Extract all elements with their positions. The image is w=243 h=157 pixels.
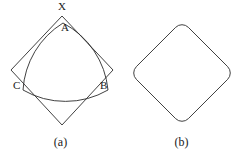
vertex-label-b: B <box>100 80 107 91</box>
figure-panel-a: X A B C (a) <box>0 0 121 157</box>
vertex-label-x: X <box>58 1 66 12</box>
figure-caption-a: (a) <box>0 136 121 148</box>
rounded-diamond-diagram <box>121 0 243 157</box>
vertex-label-c: C <box>13 80 20 91</box>
vertex-label-a: A <box>61 22 69 33</box>
figure-page: X A B C (a) (b) <box>0 0 243 157</box>
rounded-diamond-outline <box>134 25 231 122</box>
figure-panel-b: (b) <box>121 0 242 157</box>
figure-caption-b: (b) <box>121 136 242 148</box>
